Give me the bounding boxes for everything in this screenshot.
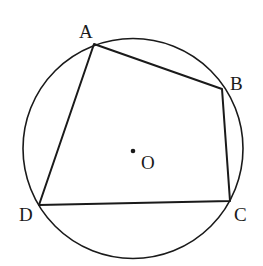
diagram-canvas: A B C D O <box>0 0 263 266</box>
center-point-o <box>131 149 136 154</box>
vertex-label-b: B <box>230 73 243 94</box>
cyclic-quadrilateral-diagram: A B C D O <box>0 0 263 266</box>
circumscribed-circle <box>23 39 243 259</box>
vertex-label-c: C <box>234 204 247 225</box>
vertex-label-d: D <box>19 204 33 225</box>
quadrilateral-abcd <box>39 44 230 205</box>
vertex-label-a: A <box>79 21 93 42</box>
center-label-o: O <box>141 152 155 173</box>
